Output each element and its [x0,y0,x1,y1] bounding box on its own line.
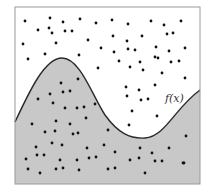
sample-point [126,40,129,43]
sample-point [62,167,65,170]
sample-point [156,115,159,118]
sample-point [27,168,30,171]
sample-point [85,117,88,120]
sample-point [95,156,98,159]
sample-point [31,123,34,126]
sample-point [72,133,75,136]
sample-point [107,168,110,171]
sample-point [51,32,54,35]
sample-point [129,159,132,162]
sample-point [35,146,38,149]
sample-point [172,32,175,35]
sample-point [94,103,97,106]
sample-point [49,17,52,20]
sample-point [55,42,58,45]
sample-point [138,89,141,92]
sample-point [76,159,79,162]
sample-point [83,106,86,109]
sample-point [69,123,72,126]
sample-point [157,57,160,60]
sample-point [139,147,142,150]
sample-point [131,110,134,113]
sample-point [166,33,169,36]
sample-point [39,172,42,175]
sample-point [25,158,28,161]
sample-point [107,129,110,132]
sample-point [62,91,65,94]
sample-point [184,77,187,80]
sample-point [155,46,158,49]
sample-point [100,47,103,50]
sample-point [24,20,27,23]
sample-point [59,159,62,162]
sample-point [168,50,171,53]
sample-point [163,24,166,27]
sample-point [168,147,171,150]
sample-point [36,154,39,157]
sample-point [71,30,74,33]
sample-point [61,144,64,147]
sample-point [44,53,47,56]
sample-point [51,142,54,145]
sample-point [126,95,129,98]
sample-point [183,162,186,165]
curve-label: f(x) [164,92,184,105]
sample-point [37,98,40,101]
sample-point [87,39,90,42]
sample-point [184,47,187,50]
sample-point [114,167,117,170]
monte-carlo-diagram: f(x) [0,0,209,195]
sample-point [154,160,157,163]
sample-point [88,157,91,160]
sample-point [118,60,121,63]
sample-point [44,131,47,134]
sample-point [127,23,130,26]
sample-point [79,18,82,21]
sample-point [62,21,65,24]
sample-point [60,82,63,85]
sample-point [69,90,72,93]
sample-point [180,20,183,23]
sample-point [128,124,131,127]
sample-point [55,120,58,123]
sample-point [125,86,128,89]
sample-point [141,35,144,38]
sample-point [161,72,164,75]
sample-point [114,151,117,154]
sample-point [170,61,173,64]
sample-point [48,27,51,30]
sample-point [97,67,100,70]
sample-point [134,49,137,52]
sample-point [95,22,98,25]
sample-point [142,69,145,72]
sample-point [27,58,30,61]
sample-point [55,168,58,171]
sample-point [112,35,115,38]
sample-point [150,20,153,23]
sample-point [185,135,188,138]
sample-point [178,60,181,63]
sample-point [111,19,114,22]
sample-point [154,84,157,87]
sample-point [140,99,143,102]
sample-point [129,66,132,69]
sample-point [64,30,67,33]
sample-point [139,61,142,64]
sample-point [52,102,55,105]
sample-point [64,107,67,110]
sample-point [43,154,46,157]
sample-point [138,157,141,160]
sample-point [78,169,81,172]
sample-point [37,29,40,32]
sample-point [78,54,81,57]
sample-point [103,144,106,147]
sample-point [161,160,164,163]
sample-point [113,51,116,54]
sample-point [54,130,57,133]
sample-point [144,172,147,175]
sample-point [76,107,79,110]
sample-point [77,78,80,81]
sample-point [49,93,52,96]
sample-point [154,56,157,59]
sample-point [77,132,80,135]
